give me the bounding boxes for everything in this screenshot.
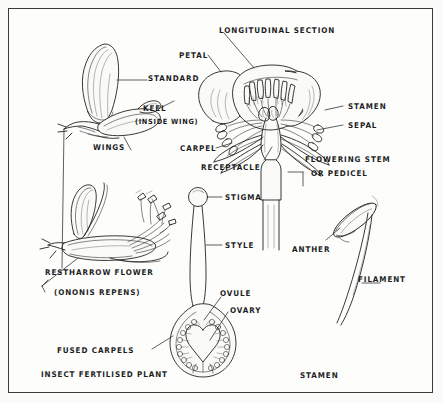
label-stamen-section: STAMEN <box>348 102 387 112</box>
leader-receptacle <box>264 147 272 160</box>
label-ovary: OVARY <box>230 306 261 316</box>
label-longitudinal-section: LONGITUDINAL SECTION <box>219 26 335 36</box>
label-wings: WINGS <box>93 143 125 153</box>
label-ovule: OVULE <box>220 289 251 299</box>
leader-carpel <box>216 143 232 148</box>
label-fused-carpels: FUSED CARPELS <box>57 346 134 356</box>
botanical-artwork <box>0 0 443 403</box>
label-or-pedicel: OR PEDICEL <box>311 169 368 179</box>
caption-ononis-repens: (ONONIS REPENS) <box>54 288 141 298</box>
label-receptacle: RECEPTACLE <box>201 163 261 173</box>
leader-longitudinal-section <box>224 33 254 68</box>
leader-petal <box>208 55 221 72</box>
figure-carpel-section <box>170 188 236 378</box>
label-flowering-stem: FLOWERING STEM <box>305 155 391 165</box>
label-standard: STANDARD <box>148 74 199 84</box>
caption-insect-fertilised-plant: INSECT FERTILISED PLANT <box>41 370 168 380</box>
label-style: STYLE <box>225 241 254 251</box>
label-keel-note: (INSIDE WING) <box>135 118 198 127</box>
figure-restharrow-dissected <box>40 183 176 262</box>
leader-stamen-section <box>325 106 343 110</box>
label-petal: PETAL <box>179 51 208 61</box>
section-stamens-right <box>281 120 329 176</box>
figure-stamen-detail <box>329 196 381 325</box>
caption-stamen: STAMEN <box>300 371 339 381</box>
label-carpel: CARPEL <box>180 144 217 154</box>
label-anther: ANTHER <box>292 245 330 255</box>
label-stigma: STIGMA <box>225 193 262 203</box>
label-sepal: SEPAL <box>348 121 377 131</box>
label-filament: FILAMENT <box>358 275 406 285</box>
diagram-page: STANDARD KEEL (INSIDE WING) WINGS RESTHA… <box>0 0 443 403</box>
caption-restharrow-flower: RESTHARROW FLOWER <box>45 268 154 278</box>
label-keel: KEEL <box>143 104 167 114</box>
